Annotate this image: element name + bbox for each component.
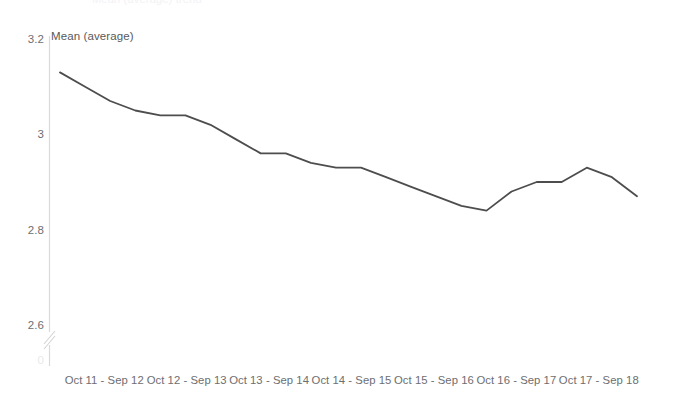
data-series-line xyxy=(60,72,637,210)
x-axis-tick-label: Oct 14 - Sep 15 xyxy=(312,374,392,386)
x-axis-tick-label: Oct 17 - Sep 18 xyxy=(559,374,639,386)
x-axis-tick-label: Oct 13 - Sep 14 xyxy=(229,374,309,386)
x-axis-label-group: Oct 11 - Sep 12Oct 12 - Sep 13Oct 13 - S… xyxy=(0,374,689,396)
x-axis-tick-label: Oct 16 - Sep 17 xyxy=(476,374,556,386)
x-axis-tick-label: Oct 15 - Sep 16 xyxy=(394,374,474,386)
x-axis-tick-label: Oct 11 - Sep 12 xyxy=(65,374,144,386)
y-axis-group xyxy=(44,36,55,366)
x-axis-tick-label: Oct 12 - Sep 13 xyxy=(147,374,227,386)
chart-container: Mean (average) trend Mean (average) 3.23… xyxy=(0,0,689,413)
chart-plot-area xyxy=(0,0,689,413)
